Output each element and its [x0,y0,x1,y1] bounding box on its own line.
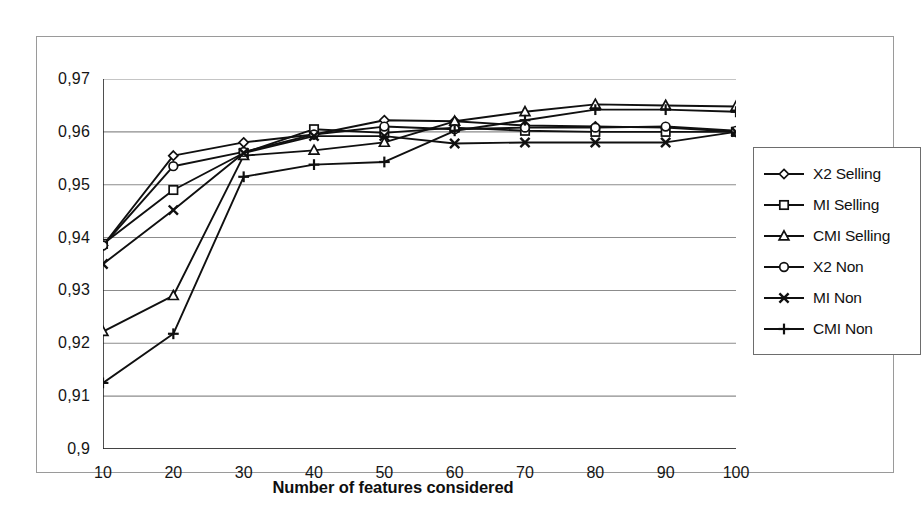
legend-label: MI Non [813,289,862,306]
plus-marker-icon [762,320,806,338]
legend-item-cmi-selling[interactable]: CMI Selling [762,220,914,251]
y-axis-tick-label: 0,95 [37,177,90,193]
data-point-circle [380,122,389,131]
data-point-triangle [168,291,178,300]
legend-item-x2-non[interactable]: X2 Non [762,251,914,282]
data-point-circle [169,162,178,171]
x-axis-title: Number of features considered [133,478,653,497]
axis-lines [103,79,736,449]
series-line [103,104,736,331]
series-line [103,127,736,246]
x-axis-tick-label: 100 [711,465,761,481]
data-point-triangle [103,326,108,335]
y-axis-tick-label: 0,92 [37,335,90,351]
legend-label: CMI Non [813,320,873,337]
data-point-square [169,186,177,194]
series-layer [103,99,736,388]
legend-item-x2-selling[interactable]: X2 Selling [762,158,914,189]
data-point-diamond [779,169,788,178]
data-point-plus [379,157,390,168]
y-axis-tick-label: 0,94 [37,230,90,246]
cross-marker-icon [762,289,806,307]
circle-marker-icon [762,258,806,276]
plot-area [103,79,736,449]
y-axis-tick-label: 0,97 [37,71,90,87]
y-axis-tick-label: 0,93 [37,282,90,298]
legend-item-cmi-non[interactable]: CMI Non [762,313,914,344]
legend-label: CMI Selling [813,227,890,244]
data-point-square [780,200,788,208]
data-point-plus [779,323,790,334]
series-cmi-selling [103,99,736,335]
legend-item-mi-selling[interactable]: MI Selling [762,189,914,220]
data-point-cross [169,205,178,214]
series-x2-selling [103,116,736,250]
x-axis-tick-label: 10 [78,465,128,481]
legend: X2 SellingMI SellingCMI SellingX2 NonMI … [753,147,921,355]
data-point-circle [780,262,789,271]
y-axis-tick-label: 0,91 [37,388,90,404]
series-line [103,128,736,244]
legend-label: X2 Selling [813,165,881,182]
y-axis-tick-label: 0,96 [37,124,90,140]
triangle-marker-icon [762,227,806,245]
data-point-plus [309,159,320,170]
data-point-diamond [239,138,248,147]
legend-label: MI Selling [813,196,879,213]
diamond-marker-icon [762,165,806,183]
data-point-plus [238,171,249,182]
plot-svg [103,79,736,449]
legend-label: X2 Non [813,258,864,275]
chart-frame: 0,970,960,950,940,930,920,910,9 10203040… [36,36,894,473]
gridlines [103,79,736,449]
data-point-circle [661,122,670,131]
square-marker-icon [762,196,806,214]
data-point-circle [591,123,600,132]
legend-item-mi-non[interactable]: MI Non [762,282,914,313]
series-x2-non [103,122,736,250]
y-axis-tick-label: 0,9 [37,441,90,457]
data-point-circle [103,241,107,250]
